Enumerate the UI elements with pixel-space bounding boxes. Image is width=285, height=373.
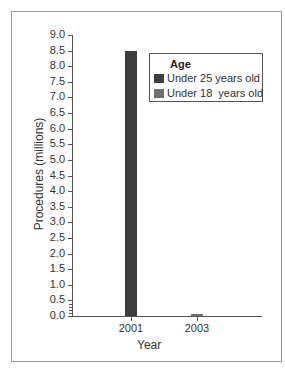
y-tick-label: 8.5 [35,44,65,56]
y-tick-label: 1.0 [35,278,65,290]
legend-label-under-18: Under 18 years old [167,87,263,99]
y-tick-label: 2.0 [35,247,65,259]
x-tick-2001 [131,317,132,321]
y-tick-label: 0.5 [35,293,65,305]
legend: Age Under 25 years old Under 18 years ol… [149,53,263,102]
y-axis-line [72,35,73,317]
x-axis-line [72,316,262,317]
legend-title: Age [170,58,191,70]
y-tick-label: 1.5 [35,262,65,274]
x-tick-label-2003: 2003 [177,322,217,334]
y-tick-label: 7.5 [35,75,65,87]
x-tick-label-2001: 2001 [111,322,151,334]
legend-swatch-under-25 [154,74,164,83]
y-tick-label: 0.0 [35,309,65,321]
bar-2003 [191,314,203,316]
x-axis-title: Year [137,338,161,352]
bar-2001 [125,51,137,316]
y-tick-label: 8.0 [35,59,65,71]
legend-item-under-25: Under 25 years old [154,72,260,84]
legend-item-under-18: Under 18 years old [154,87,263,99]
x-tick-2003 [197,317,198,321]
y-tick-label: 7.0 [35,90,65,102]
y-axis-title: Procedures (millions) [32,114,46,234]
legend-swatch-under-18 [154,89,164,98]
legend-label-under-25: Under 25 years old [167,72,260,84]
y-tick-label: 9.0 [35,28,65,40]
